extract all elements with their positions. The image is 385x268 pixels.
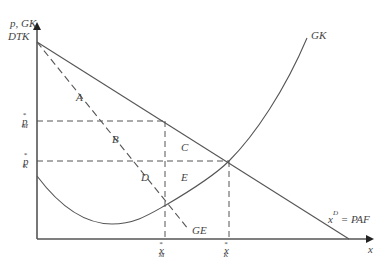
p-k-label: p*K <box>23 155 37 170</box>
gk-label: GK <box>311 30 326 41</box>
demand-curve <box>37 42 349 239</box>
y-axis-label-dtk: DTK <box>8 31 29 42</box>
demand-label: xD = PAF <box>328 213 370 225</box>
ge-label: GE <box>192 225 207 236</box>
x-m-label: x*M <box>159 244 173 259</box>
p-m-label: p*M <box>22 115 37 130</box>
region-e: E <box>181 172 188 183</box>
x-axis-label: x <box>368 244 373 255</box>
y-axis-label: p, GK <box>10 18 36 29</box>
region-c: C <box>181 142 188 153</box>
region-b: B <box>112 134 119 145</box>
region-a: A <box>76 92 83 103</box>
marginal-cost-curve <box>37 38 307 224</box>
region-d: D <box>141 172 149 183</box>
x-k-label: x*K <box>224 244 237 259</box>
